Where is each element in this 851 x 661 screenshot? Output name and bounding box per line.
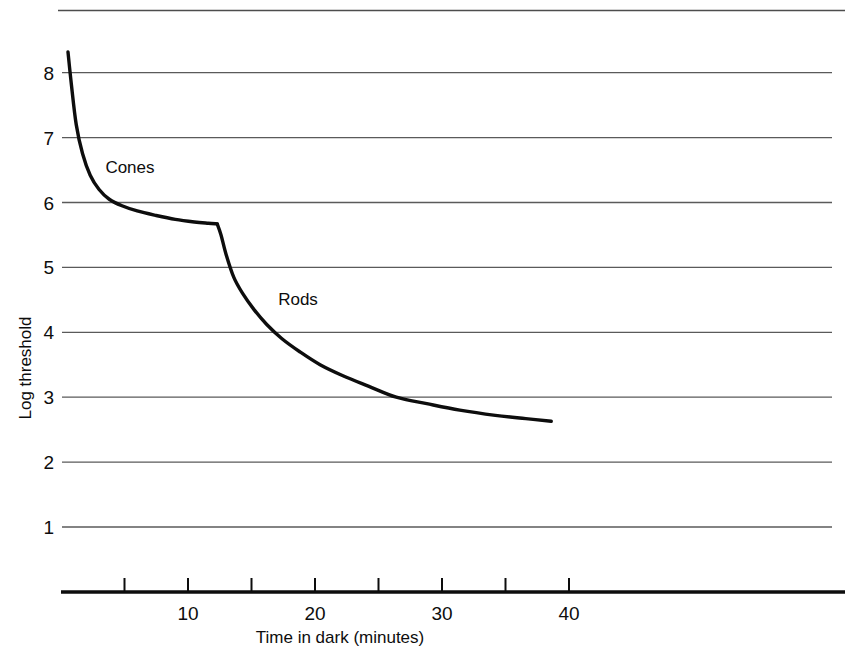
y-tick-label: 6 <box>43 193 54 214</box>
x-tick-label: 20 <box>304 603 325 624</box>
series-label-cones: Cones <box>105 158 154 177</box>
y-tick-label: 7 <box>43 128 54 149</box>
x-tick-label: 30 <box>431 603 452 624</box>
x-tick-label: 40 <box>558 603 579 624</box>
x-tick-label: 10 <box>177 603 198 624</box>
y-tick-label: 1 <box>43 517 54 538</box>
dark-adaptation-chart: 12345678 10203040 ConesRods Time in dark… <box>0 0 851 661</box>
y-axis-title: Log threshold <box>16 316 35 419</box>
y-tick-label: 2 <box>43 452 54 473</box>
y-tick-label: 5 <box>43 257 54 278</box>
y-tick-label: 4 <box>43 322 54 343</box>
y-tick-label: 3 <box>43 387 54 408</box>
series-label-rods: Rods <box>278 290 318 309</box>
chart-page: 12345678 10203040 ConesRods Time in dark… <box>0 0 851 661</box>
y-tick-label: 8 <box>43 63 54 84</box>
chart-background <box>0 0 851 661</box>
x-axis-title: Time in dark (minutes) <box>256 628 424 647</box>
